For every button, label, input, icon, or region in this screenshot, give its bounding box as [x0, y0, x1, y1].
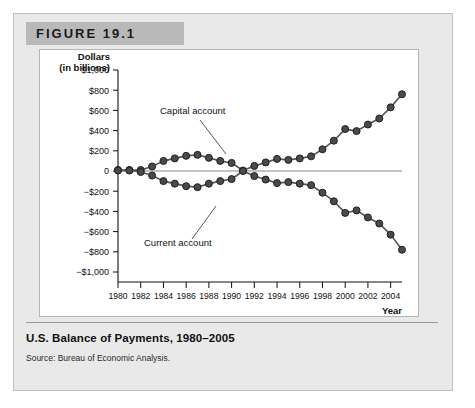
series-marker — [171, 180, 178, 187]
annotation-capital-account: Capital account — [160, 105, 226, 154]
series-marker — [194, 184, 201, 191]
series-marker — [251, 162, 258, 169]
y-axis-ticks: $1,000$800$600$400$2000−$200−$400−$600−$… — [76, 65, 118, 277]
series-marker — [364, 121, 371, 128]
chart-plot-panel: Dollars(in billions)$1,000$800$600$400$2… — [39, 49, 419, 317]
series-marker — [194, 151, 201, 158]
y-tick-label: $1,000 — [81, 65, 109, 75]
y-tick-label: −$400 — [84, 207, 109, 217]
x-tick-label: 1998 — [313, 291, 332, 301]
series-marker — [160, 157, 167, 164]
series-marker — [296, 155, 303, 162]
series-marker — [149, 172, 156, 179]
x-tick-label: 1996 — [290, 291, 309, 301]
series-marker — [262, 159, 269, 166]
x-tick-label: 1988 — [199, 291, 218, 301]
series-marker — [319, 189, 326, 196]
x-tick-label: 1980 — [108, 291, 127, 301]
series-marker — [274, 180, 281, 187]
data-series-capital-account — [115, 91, 406, 174]
series-marker — [126, 167, 133, 174]
series-marker — [353, 128, 360, 135]
figure-caption-block: U.S. Balance of Payments, 1980–2005 Sour… — [26, 322, 438, 363]
figure-number-banner: FIGURE 19.1 — [26, 22, 184, 45]
series-marker — [342, 209, 349, 216]
series-marker — [160, 178, 167, 185]
annotation-leader-line — [192, 206, 216, 239]
y-tick-label: $400 — [89, 126, 109, 136]
y-tick-label: 0 — [104, 166, 109, 176]
series-marker — [364, 214, 371, 221]
y-tick-label: $200 — [89, 146, 109, 156]
series-marker — [330, 137, 337, 144]
series-marker — [262, 176, 269, 183]
figure-number-label: FIGURE 19.1 — [26, 26, 136, 41]
series-marker — [353, 207, 360, 214]
series-marker — [399, 246, 406, 253]
y-tick-label: −$1,000 — [76, 267, 109, 277]
y-tick-label: −$800 — [84, 247, 109, 257]
y-tick-label: $800 — [89, 86, 109, 96]
x-tick-label: 1984 — [154, 291, 173, 301]
series-marker — [183, 152, 190, 159]
series-marker — [115, 167, 122, 174]
series-marker — [217, 178, 224, 185]
x-tick-label: 1982 — [131, 291, 150, 301]
series-marker — [285, 179, 292, 186]
series-marker — [137, 169, 144, 176]
balance-of-payments-line-chart: Dollars(in billions)$1,000$800$600$400$2… — [40, 50, 418, 316]
y-tick-label: −$600 — [84, 227, 109, 237]
series-marker — [319, 146, 326, 153]
caption-divider — [26, 322, 438, 323]
annotation-label: Capital account — [160, 105, 226, 116]
series-marker — [274, 155, 281, 162]
series-marker — [296, 180, 303, 187]
series-marker — [183, 183, 190, 190]
series-marker — [399, 91, 406, 98]
series-marker — [205, 180, 212, 187]
series-marker — [285, 156, 292, 163]
x-tick-label: 1994 — [267, 291, 286, 301]
series-marker — [342, 126, 349, 133]
series-marker — [205, 154, 212, 161]
series-marker — [387, 231, 394, 238]
annotation-current-account: Current account — [144, 206, 216, 248]
svg-text:Dollars: Dollars — [78, 51, 110, 62]
x-axis-ticks: 1980198219841986198819901992199419961998… — [108, 282, 400, 301]
series-marker — [228, 159, 235, 166]
series-marker — [228, 176, 235, 183]
x-tick-label: 1990 — [222, 291, 241, 301]
annotation-label: Current account — [144, 237, 212, 248]
series-marker — [149, 163, 156, 170]
x-tick-label: 2004 — [381, 291, 400, 301]
figure-container: FIGURE 19.1 Dollars(in billions)$1,000$8… — [13, 13, 453, 391]
series-marker — [387, 104, 394, 111]
x-tick-label: 1986 — [177, 291, 196, 301]
series-marker — [308, 182, 315, 189]
series-marker — [251, 173, 258, 180]
x-tick-label: 2000 — [336, 291, 355, 301]
series-marker — [308, 153, 315, 160]
x-axis-label: Year — [382, 305, 402, 316]
y-tick-label: −$200 — [84, 187, 109, 197]
series-marker — [239, 168, 246, 175]
series-marker — [171, 155, 178, 162]
figure-caption-title: U.S. Balance of Payments, 1980–2005 — [26, 332, 438, 344]
annotation-leader-line — [200, 120, 226, 154]
x-tick-label: 1992 — [245, 291, 264, 301]
series-marker — [376, 220, 383, 227]
series-marker — [376, 115, 383, 122]
series-marker — [217, 157, 224, 164]
figure-source-note: Source: Bureau of Economic Analysis. — [26, 353, 438, 363]
series-marker — [330, 198, 337, 205]
y-tick-label: $600 — [89, 106, 109, 116]
x-tick-label: 2002 — [358, 291, 377, 301]
